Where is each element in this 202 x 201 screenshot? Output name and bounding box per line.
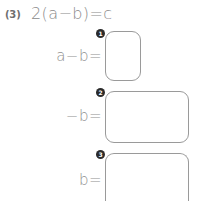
answer-box-badge: 3 [96,150,105,159]
answer-input-box[interactable] [105,91,189,143]
answer-input-box[interactable] [105,153,189,201]
answer-row-label: −b= [38,107,102,125]
problem-equation: 2(a−b)=c [31,4,112,23]
answer-box-badge: 1 [96,29,105,38]
worksheet-page: (3) 2(a−b)=c a−b= 1 −b= 2 b= 3 [0,0,202,201]
answer-row: b= 3 [0,150,202,201]
answer-row: a−b= 1 [0,29,202,83]
answer-input-box[interactable] [105,31,141,81]
answer-row-label: a−b= [30,47,102,65]
answer-row: −b= 2 [0,88,202,146]
answer-row-label: b= [46,171,102,189]
problem-header: (3) 2(a−b)=c [0,0,202,28]
problem-number-label: (3) [5,9,21,20]
answer-box-badge: 2 [96,88,105,97]
